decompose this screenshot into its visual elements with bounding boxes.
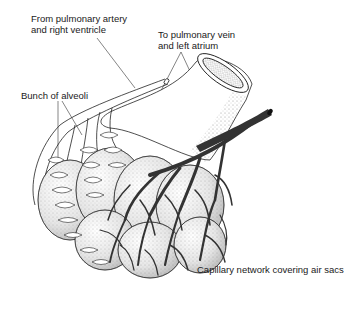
label-pulmonary-artery-line2: and right ventricle [31,24,127,35]
label-pulmonary-artery: From pulmonary artery and right ventricl… [31,13,127,35]
label-pulmonary-vein-line1: To pulmonary vein [158,29,235,40]
alveoli-diagram: From pulmonary artery and right ventricl… [0,0,344,309]
label-pulmonary-vein: To pulmonary vein and left atrium [158,29,235,51]
label-bunch-of-alveoli: Bunch of alveoli [21,90,88,101]
label-pulmonary-vein-line2: and left atrium [158,40,235,51]
label-pulmonary-artery-line1: From pulmonary artery [31,13,127,24]
pulmonary-vein-funnel [101,47,254,162]
label-capillary-network: Capillary network covering air sacs [197,264,344,275]
